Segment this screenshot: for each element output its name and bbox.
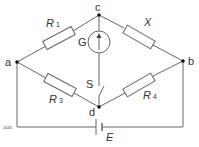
resistor-r1: [43, 27, 75, 50]
switch-blade: [99, 86, 104, 96]
node-a-label: a: [5, 56, 12, 68]
node-b-dot: [181, 59, 185, 63]
figure-number: 1635: [3, 125, 13, 130]
arrow-up-icon: [97, 33, 102, 38]
battery-label: E: [106, 131, 114, 143]
resistor-r1-label: R1: [46, 17, 60, 29]
resistor-x: [123, 25, 155, 49]
wire-a-r3: [17, 62, 46, 78]
switch-label: S: [86, 78, 93, 90]
wire-c-x: [99, 15, 124, 28]
resistor-r4-label: R4: [143, 89, 157, 101]
node-d-label: d: [89, 106, 95, 118]
node-c-label: c: [95, 1, 101, 13]
wheatstone-bridge-diagram: a c b d R1 X R3 R4 G S E 1635: [0, 0, 199, 147]
resistor-r3-label: R3: [49, 93, 63, 105]
node-a-dot: [15, 60, 19, 64]
wire-d-r4: [99, 93, 125, 107]
resistor-x-label: X: [143, 16, 152, 28]
wire-r4-b: [153, 61, 183, 76]
wire-x-b: [153, 45, 183, 61]
wire-r3-d: [74, 93, 99, 107]
node-c-dot: [97, 13, 101, 17]
wire-r1-c: [73, 15, 99, 31]
galvanometer-label: G: [78, 36, 87, 48]
node-d-dot: [97, 105, 101, 109]
wire-a-r1: [17, 46, 46, 62]
node-b-label: b: [188, 55, 194, 67]
